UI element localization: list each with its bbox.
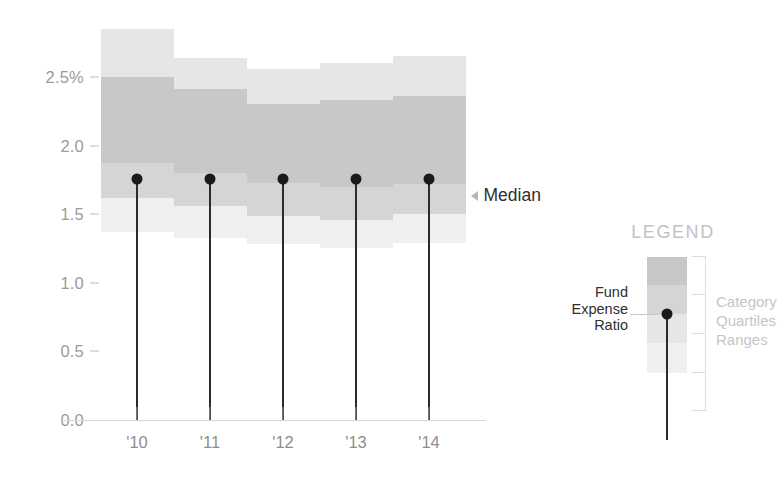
fund-expense-ratio-dot [278, 173, 289, 184]
fund-expense-ratio-dot [132, 173, 143, 184]
legend-title: LEGEND [608, 222, 738, 243]
legend-stem [666, 314, 668, 440]
y-axis-tick-mark [90, 214, 99, 215]
x-axis-tick-label: '11 [200, 433, 220, 452]
y-axis-tick-label: 1.0 [12, 273, 84, 292]
fund-expense-ratio-stem [355, 179, 357, 420]
legend-fund-dot [662, 309, 673, 320]
median-annotation: Median [471, 185, 541, 206]
x-axis-tick-label: '13 [345, 433, 367, 452]
quartile-band-segment [393, 96, 466, 184]
legend-right-line-3: Ranges [716, 330, 777, 349]
quartile-band-segment [174, 89, 247, 173]
x-axis-tick-mark [282, 407, 283, 420]
legend-right-line-1: Category [716, 292, 777, 311]
x-axis-tick-label: '10 [126, 433, 148, 452]
legend-swatch-segment [647, 257, 687, 285]
legend-bracket-tick [692, 333, 706, 334]
legend-left-line-2: Expense [556, 301, 628, 318]
y-axis-tick-label: 2.0 [12, 136, 84, 155]
x-axis-tick-mark [428, 407, 429, 420]
fund-expense-ratio-dot [205, 173, 216, 184]
x-axis-tick-mark [355, 407, 356, 420]
y-axis-tick-label: 1.5 [12, 205, 84, 224]
y-axis-tick-mark [90, 351, 99, 352]
legend-left-line-3: Ratio [556, 317, 628, 334]
y-axis-tick-label: 2.5% [12, 68, 84, 87]
legend: LEGEND Fund Expense Ratio Category Quart… [556, 222, 784, 442]
x-axis-tick-mark [209, 407, 210, 420]
chart-canvas: 2.5%2.01.51.00.50.0 Median '10'11'12'13'… [0, 0, 784, 481]
legend-right-line-2: Quartiles [716, 311, 777, 330]
legend-bracket-tick [692, 294, 706, 295]
legend-bracket-tick [692, 372, 706, 373]
plot-area [100, 0, 468, 481]
triangle-left-icon [471, 191, 478, 201]
legend-bracket-tick [692, 256, 706, 257]
fund-expense-ratio-dot [351, 173, 362, 184]
legend-leader-line [630, 314, 660, 315]
fund-expense-ratio-stem [282, 179, 284, 420]
legend-bracket-tick [692, 410, 706, 411]
y-axis-tick-mark [90, 282, 99, 283]
y-axis-tick-label: 0.5 [12, 342, 84, 361]
y-axis-tick-mark [90, 77, 99, 78]
x-axis-tick-label: '12 [272, 433, 294, 452]
quartile-band-segment [247, 104, 320, 182]
median-label: Median [484, 185, 541, 206]
legend-fund-expense-ratio-label: Fund Expense Ratio [556, 284, 628, 334]
fund-expense-ratio-stem [136, 179, 138, 420]
legend-left-line-1: Fund [556, 284, 628, 301]
legend-category-quartiles-label: Category Quartiles Ranges [716, 292, 777, 349]
fund-expense-ratio-stem [428, 179, 430, 420]
quartile-band-segment [101, 77, 174, 163]
axis-baseline [61, 420, 486, 421]
fund-expense-ratio-dot [424, 173, 435, 184]
x-axis-tick-label: '14 [418, 433, 440, 452]
x-axis-tick-mark [136, 407, 137, 420]
fund-expense-ratio-stem [209, 179, 211, 420]
y-axis-tick-mark [90, 145, 99, 146]
